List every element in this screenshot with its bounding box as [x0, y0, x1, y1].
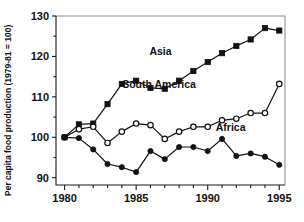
data-point-1981	[76, 136, 81, 141]
data-point-1981	[76, 127, 81, 132]
x-tick-label: 1985	[124, 192, 148, 204]
data-point-1993	[248, 151, 253, 156]
data-point-1988	[176, 129, 181, 134]
data-point-1985	[133, 121, 138, 126]
x-tick-label: 1980	[52, 192, 76, 204]
y-tick-label: 110	[31, 91, 49, 103]
data-point-1989	[191, 68, 196, 73]
data-point-1991	[219, 136, 224, 141]
series-label-africa: Africa	[216, 121, 246, 133]
data-point-1983	[105, 161, 110, 166]
data-point-1985	[134, 169, 139, 174]
data-point-1990	[205, 148, 210, 153]
data-point-1983	[105, 102, 110, 107]
data-point-1995	[277, 162, 282, 167]
data-point-1987	[162, 157, 167, 162]
data-point-1995	[277, 81, 282, 86]
y-tick-label: 100	[31, 131, 49, 143]
y-axis-title: Per capita food production (1979-81 = 10…	[3, 25, 13, 196]
data-point-1994	[262, 110, 267, 115]
data-point-1984	[119, 129, 124, 134]
chart-figure: 1980198519901995 90100110120130 AsiaSout…	[0, 0, 304, 222]
data-point-1982	[91, 124, 96, 129]
y-tick-label: 130	[31, 10, 49, 22]
data-point-1987	[162, 136, 167, 141]
x-tick-label: 1990	[195, 192, 219, 204]
data-point-1994	[262, 26, 267, 31]
data-point-1989	[191, 144, 196, 149]
series-label-south-america: South America	[122, 78, 196, 90]
data-point-1984	[119, 165, 124, 170]
data-point-1988	[176, 144, 181, 149]
data-point-1993	[248, 110, 253, 115]
series-label-asia: Asia	[149, 45, 171, 57]
data-point-1992	[234, 43, 239, 48]
data-point-1990	[205, 59, 210, 64]
data-point-1986	[148, 122, 153, 127]
data-point-1982	[91, 147, 96, 152]
data-point-1989	[191, 124, 196, 129]
x-tick-label: 1995	[267, 192, 291, 204]
data-point-1980	[62, 135, 67, 140]
data-point-1983	[105, 140, 110, 145]
data-point-1992	[234, 153, 239, 158]
data-point-1993	[248, 37, 253, 42]
food-production-line-chart: 1980198519901995 90100110120130 AsiaSout…	[0, 0, 304, 222]
data-point-1995	[277, 28, 282, 33]
data-point-1991	[219, 51, 224, 56]
y-tick-label: 120	[31, 50, 49, 62]
data-point-1986	[148, 148, 153, 153]
data-point-1990	[205, 124, 210, 129]
data-point-1994	[262, 154, 267, 159]
y-tick-label: 90	[37, 172, 49, 184]
